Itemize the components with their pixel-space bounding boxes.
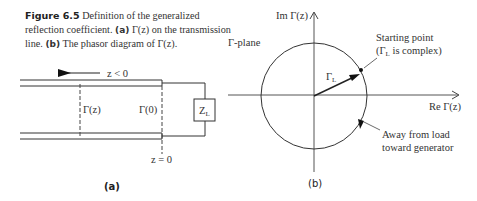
phasor-arrowhead-icon [349, 74, 360, 81]
phasor-label: ΓL [326, 71, 336, 84]
direction-arrowhead-icon [58, 69, 71, 77]
figure-canvas: z < 0 ZL Γ(z) Γ(0) z = 0 (a) ΓL Im Γ(z) … [0, 0, 477, 201]
panel-a-transmission-line: z < 0 ZL Γ(z) Γ(0) z = 0 (a) [20, 68, 215, 192]
load-wire-top [162, 83, 205, 99]
load-wire-bottom [162, 121, 205, 136]
starting-point-annotation: Starting point [376, 32, 434, 43]
im-axis-label: Im Γ(z) [276, 10, 309, 22]
starting-point-annotation-2: (ΓL is complex) [376, 45, 442, 58]
gamma-z-label: Γ(z) [83, 104, 101, 116]
direction-annotation-2: toward generator [382, 142, 454, 153]
starting-point-dot [359, 68, 363, 72]
plane-label: Γ-plane [228, 37, 261, 48]
direction-leader [364, 122, 380, 130]
starting-point-leader [364, 58, 377, 68]
panel-b-sublabel: (b) [308, 178, 322, 189]
panel-b-phasor-diagram: ΓL Im Γ(z) Re Γ(z) Γ-plane Starting poin… [228, 10, 462, 189]
panel-a-sublabel: (a) [104, 181, 120, 192]
origin-label: z = 0 [151, 154, 172, 165]
re-axis-label: Re Γ(z) [429, 101, 462, 113]
gamma-0-label: Γ(0) [139, 104, 158, 116]
direction-label: z < 0 [107, 68, 128, 79]
direction-annotation: Away from load [382, 129, 451, 140]
